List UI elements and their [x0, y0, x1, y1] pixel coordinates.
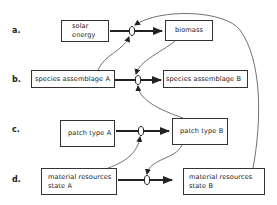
row-label-c: c.	[12, 125, 20, 134]
box-patch-type-a: patch type A	[60, 120, 115, 147]
box-solar-energy: solar energy	[61, 20, 109, 42]
box-species-assemblage-b: species assemblage B	[163, 70, 248, 88]
box-text-line: species assemblage A	[35, 75, 114, 84]
box-material-resources-state-a: material resources state A	[41, 168, 117, 195]
box-text-line: patch type B	[180, 127, 227, 136]
flow-arrow-a	[110, 27, 162, 36]
flow-arrow-d	[118, 176, 172, 185]
influence-arrow	[138, 86, 183, 118]
box-species-assemblage-a: species assemblage A	[31, 70, 115, 88]
box-text-line: state B	[189, 182, 264, 191]
box-text-line: material resources	[48, 173, 116, 182]
row-label-b: b.	[12, 75, 21, 84]
box-text-line: species assemblage B	[166, 75, 247, 84]
row-label-a: a.	[12, 26, 20, 35]
box-patch-type-b: patch type B	[172, 118, 228, 145]
flow-arrow-c	[116, 127, 169, 136]
box-text-line: biomass	[175, 26, 203, 35]
valve-icon	[144, 176, 149, 185]
valve-icon	[138, 127, 143, 136]
box-text-line: energy	[72, 31, 108, 40]
valve-icon	[129, 27, 134, 36]
box-text-line: solar	[72, 22, 108, 31]
influence-arrow	[147, 145, 182, 174]
box-biomass: biomass	[165, 20, 213, 41]
box-material-resources-state-b: material resources state B	[183, 168, 265, 195]
box-text-line: patch type A	[68, 129, 114, 138]
box-text-line: state A	[48, 182, 116, 191]
valve-icon	[135, 76, 140, 85]
box-text-line: material resources	[189, 173, 264, 182]
flow-arrow-b	[115, 76, 161, 85]
row-label-d: d.	[12, 175, 21, 184]
